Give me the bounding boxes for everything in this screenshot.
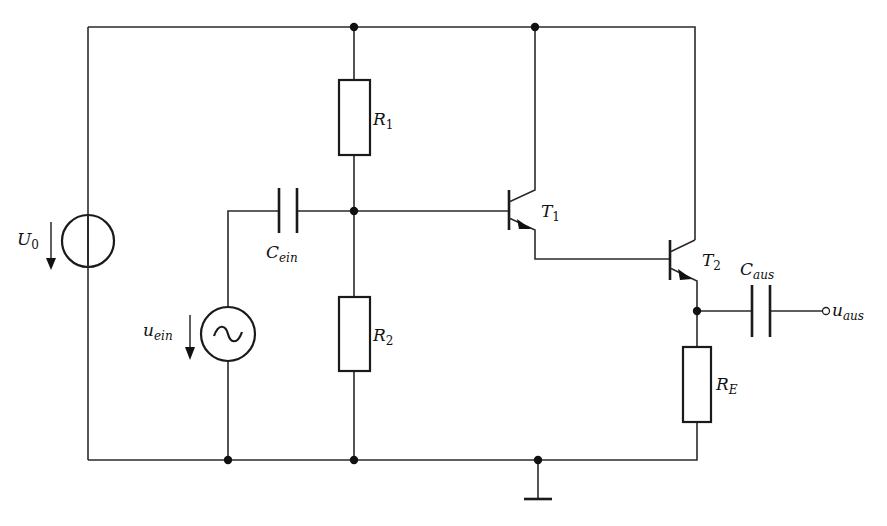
label-caus: Caus: [740, 261, 774, 281]
caus-capacitor: [752, 285, 770, 337]
t2-transistor: [670, 240, 697, 347]
label-r1: R1: [373, 111, 393, 131]
ground-icon: [524, 460, 552, 499]
label-r2: R2: [373, 327, 393, 347]
supply-rail-top: [88, 27, 695, 240]
label-uein: uein: [143, 322, 173, 342]
t1-transistor: [509, 27, 670, 259]
cein-capacitor: [279, 188, 297, 233]
label-t1: T1: [541, 203, 560, 223]
r1-resistor: [339, 80, 370, 155]
u0-arrow-icon: [46, 222, 56, 270]
uein-arrow-icon: [185, 315, 195, 360]
ground-rail-bottom: [88, 422, 697, 460]
label-t2: T2: [702, 252, 721, 272]
label-re: RE: [716, 376, 738, 396]
r2-resistor: [339, 297, 370, 371]
uein-source: [201, 307, 255, 361]
label-uaus: uaus: [832, 302, 864, 322]
re-resistor: [683, 347, 711, 422]
u0-source: [62, 215, 114, 267]
output-terminal: [823, 308, 830, 315]
label-cein: Cein: [266, 244, 298, 264]
label-u0: U0: [17, 231, 39, 251]
